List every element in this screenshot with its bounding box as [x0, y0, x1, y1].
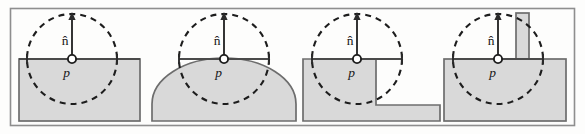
normal-label: n̂ [62, 33, 69, 48]
surface-sampling-figure: n̂ p⃗ n̂ p⃗ n̂ p⃗ n̂ [0, 0, 585, 134]
panel-flat-plane: n̂ p⃗ [19, 12, 140, 121]
point-label: p⃗ [62, 65, 80, 80]
point-marker [353, 55, 361, 63]
normal-label: n̂ [488, 33, 495, 48]
panel-convex-dome: n̂ p⃗ [152, 12, 296, 121]
normal-label: n̂ [347, 33, 354, 48]
normal-label: n̂ [214, 33, 221, 48]
thin-fin-surface [516, 13, 529, 59]
point-marker [220, 55, 228, 63]
point-marker [494, 55, 502, 63]
point-label: p⃗ [214, 65, 232, 80]
point-label: p⃗ [347, 65, 365, 80]
panel-thin-fin: n̂ p⃗ [444, 12, 566, 121]
point-marker [68, 55, 76, 63]
concave-step-surface [303, 59, 440, 121]
panel-concave-step: n̂ p⃗ [303, 12, 440, 121]
point-label: p⃗ [488, 65, 506, 80]
